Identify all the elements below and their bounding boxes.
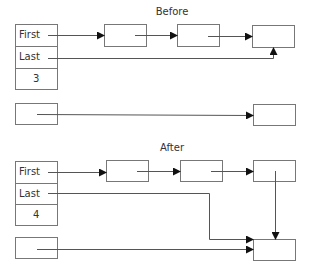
before-new-node-pointer: [16, 104, 58, 125]
after-first-label: First: [19, 167, 40, 177]
linked-list-diagram: [0, 0, 310, 273]
before-section: [16, 25, 296, 126]
before-last-arrow: [48, 48, 274, 59]
after-node-4: [254, 240, 296, 261]
before-node-3: [253, 26, 295, 48]
before-last-label: Last: [19, 52, 40, 62]
before-new-node: [254, 105, 296, 126]
after-last-label: Last: [19, 189, 40, 199]
before-first-label: First: [19, 30, 40, 40]
after-section: [16, 161, 296, 261]
after-node-3: [254, 161, 296, 182]
after-new-node-pointer: [16, 238, 58, 259]
after-title: After: [160, 143, 184, 153]
before-count: 3: [33, 74, 39, 84]
before-pointer-arrow: [37, 115, 253, 116]
after-count: 4: [33, 210, 39, 220]
before-node-2: [178, 25, 220, 47]
after-last-arrow: [48, 194, 253, 240]
before-title: Before: [156, 7, 189, 17]
